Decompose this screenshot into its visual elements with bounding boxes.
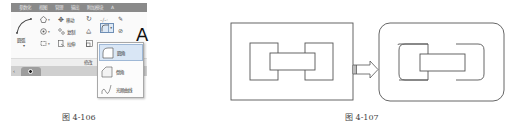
erase-icon[interactable]: ✎ bbox=[118, 15, 123, 23]
fillet-dropdown-toggle[interactable]: ▾ bbox=[109, 24, 113, 32]
menu-item-label: 倒角 bbox=[116, 69, 124, 75]
boundary-button[interactable]: ▾ bbox=[40, 40, 50, 47]
copy-label: 复制 bbox=[67, 29, 75, 35]
tab-parametric[interactable]: 参数化 bbox=[11, 3, 35, 12]
hatch-button[interactable]: ▾ bbox=[40, 28, 50, 35]
rotate-icon[interactable]: ↻ bbox=[86, 15, 92, 23]
chevron-down-icon: ▾ bbox=[48, 30, 50, 34]
arc-dropdown-caret[interactable]: ▾ bbox=[23, 43, 25, 48]
fillet-dropdown-menu: 圆角 倒角 光顺曲线 bbox=[97, 42, 144, 98]
fillet-split-button[interactable]: ▾ bbox=[100, 23, 114, 33]
trim-icon[interactable]: -/-· bbox=[100, 16, 108, 23]
polygon-icon bbox=[40, 16, 47, 23]
polygon-button[interactable]: ▾ bbox=[40, 16, 50, 23]
offset-icon[interactable]: ⊘ bbox=[118, 27, 123, 35]
menu-item-label: 光顺曲线 bbox=[116, 87, 132, 93]
chamfer-icon bbox=[101, 66, 113, 78]
move-icon: ✥ bbox=[58, 16, 64, 24]
boundary-icon bbox=[40, 40, 47, 47]
menu-item-chamfer[interactable]: 倒角 bbox=[99, 63, 143, 80]
chevron-down-icon: ▾ bbox=[48, 18, 50, 22]
arc-button[interactable]: 圆弧 ▾ bbox=[14, 15, 36, 47]
scale-icon[interactable] bbox=[86, 40, 93, 47]
stretch-label: 拉伸 bbox=[67, 41, 75, 47]
menu-item-fillet[interactable]: 圆角 bbox=[99, 44, 143, 61]
move-button[interactable]: ✥ 移动 bbox=[58, 16, 74, 24]
stretch-icon bbox=[58, 40, 65, 47]
fillet-icon bbox=[102, 47, 114, 59]
arc-icon bbox=[15, 16, 35, 36]
fillet-icon bbox=[101, 24, 109, 32]
after-shape bbox=[379, 23, 504, 101]
move-label: 移动 bbox=[66, 17, 74, 23]
copy-icon bbox=[58, 28, 65, 35]
close-icon[interactable]: ‹ bbox=[13, 66, 15, 76]
copy-button[interactable]: 复制 bbox=[58, 28, 75, 35]
menu-item-blend-curves[interactable]: 光顺曲线 bbox=[99, 81, 143, 98]
tab-view[interactable]: 视图 bbox=[35, 3, 51, 12]
fillet-main-button[interactable] bbox=[101, 24, 109, 32]
right-arrow-icon bbox=[353, 61, 378, 78]
figure-caption-right: 图 4-107 bbox=[345, 111, 379, 122]
tab-a360[interactable]: A bbox=[107, 3, 118, 12]
stretch-button[interactable]: 拉伸 bbox=[58, 40, 75, 47]
before-shape bbox=[231, 23, 353, 100]
mirror-icon[interactable]: ⧋ bbox=[86, 27, 91, 35]
tab-output[interactable]: 输出 bbox=[67, 3, 83, 12]
ribbon-tab-bar: 参数化 视图 管理 输出 附加模块 A bbox=[11, 3, 147, 12]
document-tab[interactable] bbox=[21, 67, 41, 76]
tab-addins[interactable]: 附加模块 bbox=[83, 3, 107, 12]
ribbon-screenshot: 参数化 视图 管理 输出 附加模块 A 圆弧 ▾ ▾ ▾ ▾ bbox=[11, 3, 147, 96]
chevron-down-icon: ▾ bbox=[48, 42, 50, 46]
drawing-icon bbox=[28, 69, 33, 74]
tab-manage[interactable]: 管理 bbox=[51, 3, 67, 12]
hatch-icon bbox=[40, 28, 47, 35]
figure-caption-left: 图 4-106 bbox=[62, 111, 96, 122]
menu-item-label: 圆角 bbox=[117, 50, 125, 56]
blend-curve-icon bbox=[101, 84, 113, 96]
